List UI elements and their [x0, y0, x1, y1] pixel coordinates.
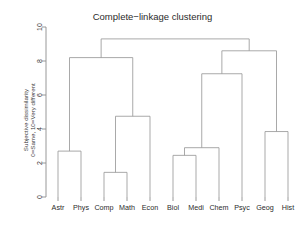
dendrogram-link-m2	[104, 172, 127, 197]
leaf-label-psyc: Psyc	[234, 203, 250, 212]
y-tick-group: 0246810	[36, 23, 47, 199]
dendrogram-link-m9	[222, 51, 277, 132]
y-tick-label: 10	[36, 23, 43, 31]
dendrogram-link-m7	[202, 74, 242, 197]
chart-title: Complete−linkage clustering	[93, 11, 213, 22]
y-axis: 0246810 Subjective dissimilarity 0=Same,…	[22, 23, 46, 199]
dendrogram-figure: Complete−linkage clustering 0246810 Subj…	[0, 0, 305, 230]
leaf-label-group: AstrPhysCompMathEconBiolMediChemPsycGeog…	[52, 197, 295, 212]
dendrogram-link-m4	[70, 58, 133, 152]
leaf-label-astr: Astr	[52, 203, 65, 212]
dendrogram-link-m1	[58, 151, 81, 197]
y-tick-label: 6	[36, 93, 43, 97]
leaf-label-math: Math	[119, 203, 135, 212]
dendrogram-links	[58, 39, 288, 197]
leaf-label-geog: Geog	[256, 203, 274, 212]
y-axis-title-line1: Subjective dissimilarity	[22, 88, 29, 151]
y-tick-label: 2	[36, 161, 43, 165]
dendrogram-link-m8	[265, 132, 288, 197]
leaf-label-comp: Comp	[94, 203, 113, 212]
leaf-label-medi: Medi	[188, 203, 204, 212]
leaf-label-chem: Chem	[209, 203, 228, 212]
leaf-label-phys: Phys	[73, 203, 89, 212]
y-tick-label: 8	[36, 59, 43, 63]
leaf-label-hist: Hist	[282, 203, 294, 212]
dendrogram-link-m10	[101, 39, 249, 58]
y-axis-title-line2: 0=Same, 10=Very different	[29, 83, 36, 157]
dendrogram-link-m5	[173, 155, 196, 197]
leaf-label-econ: Econ	[142, 203, 158, 212]
y-tick-label: 0	[36, 195, 43, 199]
y-tick-label: 4	[36, 127, 43, 131]
leaf-label-biol: Biol	[167, 203, 179, 212]
dendrogram-plot: Complete−linkage clustering 0246810 Subj…	[0, 0, 305, 230]
dendrogram-link-m3	[116, 116, 151, 197]
